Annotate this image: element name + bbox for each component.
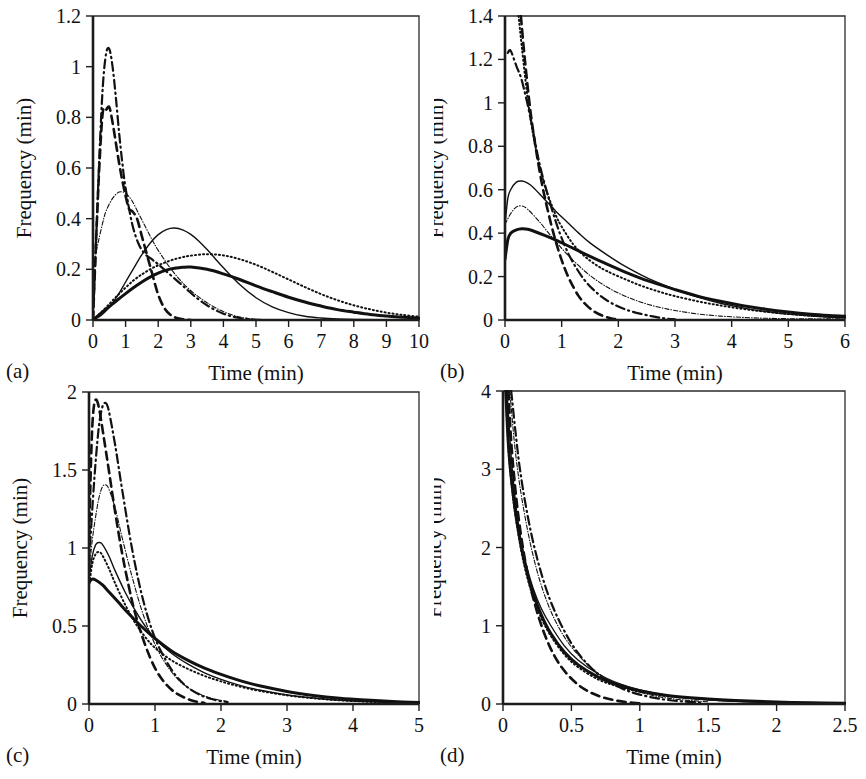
svg-text:1: 1 [635, 714, 645, 736]
svg-text:1.5: 1.5 [696, 714, 721, 736]
svg-text:1.2: 1.2 [56, 5, 81, 27]
curve-b-thin-solid [505, 181, 845, 318]
svg-text:5: 5 [251, 330, 261, 352]
svg-text:8: 8 [349, 330, 359, 352]
svg-text:2: 2 [67, 385, 77, 403]
panel-label-a: (a) [6, 359, 29, 383]
plot-frame-b [505, 16, 845, 320]
svg-text:5: 5 [783, 330, 793, 352]
panel-label-d: (d) [440, 743, 465, 767]
svg-text:2: 2 [613, 330, 623, 352]
svg-text:1: 1 [71, 56, 81, 78]
svg-text:3: 3 [186, 330, 196, 352]
curve-a-dashed [93, 107, 191, 320]
x-axis-title-d: Time (min) [626, 745, 721, 769]
svg-text:1.4: 1.4 [468, 5, 493, 27]
y-axis-title-c: Frequency (min) [8, 478, 32, 619]
svg-text:0: 0 [500, 330, 510, 352]
plot-frame-a [93, 16, 419, 320]
axes-b [505, 16, 845, 320]
svg-text:1: 1 [557, 330, 567, 352]
figure-root: 01234567891000.20.40.60.811.2Time (min)F… [0, 0, 866, 779]
svg-text:0.5: 0.5 [559, 714, 584, 736]
svg-text:1.5: 1.5 [52, 459, 77, 481]
curves-a [93, 48, 419, 320]
svg-text:0: 0 [71, 309, 81, 331]
x-axis-title-c: Time (min) [206, 745, 301, 769]
svg-text:0: 0 [67, 693, 77, 715]
curve-d-thin-dashdot-low [510, 391, 708, 702]
svg-text:0.6: 0.6 [56, 157, 81, 179]
svg-text:1.2: 1.2 [468, 48, 493, 70]
svg-text:3: 3 [670, 330, 680, 352]
svg-text:4: 4 [727, 330, 737, 352]
svg-text:1: 1 [67, 537, 77, 559]
chart-panel-b: 012345600.20.40.60.811.21.4Time (min)Fre… [434, 0, 866, 390]
svg-text:5: 5 [414, 714, 424, 736]
curves-c [89, 400, 419, 704]
x-axis-title-a: Time (min) [208, 361, 303, 385]
svg-text:7: 7 [316, 330, 326, 352]
svg-text:0.8: 0.8 [56, 106, 81, 128]
svg-text:0.6: 0.6 [468, 179, 493, 201]
svg-text:2.5: 2.5 [833, 714, 858, 736]
svg-text:0.2: 0.2 [56, 258, 81, 280]
svg-text:3: 3 [282, 714, 292, 736]
svg-text:2: 2 [153, 330, 163, 352]
svg-text:0: 0 [498, 714, 508, 736]
svg-text:6: 6 [840, 330, 850, 352]
curves-d [506, 391, 845, 704]
svg-text:9: 9 [381, 330, 391, 352]
svg-text:2: 2 [216, 714, 226, 736]
svg-text:0.4: 0.4 [56, 208, 81, 230]
y-axis-title-d: Frequency (min) [434, 477, 446, 618]
x-axis-title-b: Time (min) [627, 361, 722, 385]
svg-text:4: 4 [218, 330, 228, 352]
curves-b [505, 16, 845, 320]
axes-c [89, 392, 419, 704]
svg-text:0: 0 [481, 693, 491, 715]
svg-text:6: 6 [284, 330, 294, 352]
axes-a [93, 16, 419, 320]
svg-text:1: 1 [150, 714, 160, 736]
svg-text:3: 3 [481, 458, 491, 480]
chart-panel-a: 01234567891000.20.40.60.811.2Time (min)F… [0, 0, 434, 390]
svg-text:0: 0 [84, 714, 94, 736]
svg-text:1: 1 [121, 330, 131, 352]
chart-panel-d: 00.511.522.501234Time (min)Frequency (mi… [434, 385, 866, 779]
curve-d-dash-dot [511, 391, 701, 703]
curve-c-dash-dot [89, 403, 228, 702]
curve-a-thick-solid [93, 267, 419, 320]
svg-text:2: 2 [481, 537, 491, 559]
curve-c-thick-solid [89, 579, 419, 702]
ticks-c: 01234500.511.52 [52, 385, 424, 736]
svg-text:4: 4 [481, 385, 491, 402]
svg-text:0.8: 0.8 [468, 135, 493, 157]
svg-text:0.4: 0.4 [468, 222, 493, 244]
curve-d-thick-solid [506, 391, 845, 703]
svg-text:1: 1 [483, 92, 493, 114]
curve-d-thin-solid [507, 391, 845, 704]
svg-text:0.2: 0.2 [468, 266, 493, 288]
svg-text:1: 1 [481, 615, 491, 637]
svg-text:10: 10 [409, 330, 429, 352]
y-axis-title-a: Frequency (min) [12, 98, 36, 239]
plot-frame-c [89, 392, 419, 704]
chart-panel-c: 01234500.511.52Time (min)Frequency (min)… [0, 385, 434, 779]
svg-text:0.5: 0.5 [52, 615, 77, 637]
y-axis-title-b: Frequency (min) [434, 98, 448, 239]
curve-b-dashed [521, 16, 618, 320]
panel-label-b: (b) [440, 359, 465, 383]
svg-text:0: 0 [483, 309, 493, 331]
svg-text:0: 0 [88, 330, 98, 352]
panel-label-c: (c) [6, 743, 29, 767]
curve-d-dotted [506, 391, 845, 703]
svg-text:4: 4 [348, 714, 358, 736]
svg-text:2: 2 [772, 714, 782, 736]
